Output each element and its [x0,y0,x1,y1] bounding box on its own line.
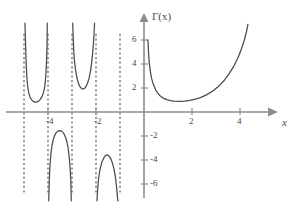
y-tick-label: 6 [132,35,137,44]
plot-canvas [0,0,298,218]
gamma-branch--4--3 [49,131,72,201]
x-tick-label: 2 [189,117,194,126]
y-tick-label: 4 [132,59,137,68]
y-tick-label: 2 [132,83,137,92]
gamma-branch--5--4 [25,23,47,102]
x-tick-label: -2 [94,117,102,126]
asymptote-lines [24,34,120,194]
x-tick-label: -4 [46,117,54,126]
y-axis-label: Γ(x) [152,11,171,22]
y-tick-label: -4 [150,155,158,164]
y-tick-label: -2 [150,131,158,140]
x-tick-label: 4 [237,117,242,126]
y-axis [140,13,149,198]
gamma-branch--3--2 [73,23,95,89]
gamma-function-plot: -4-224642-2-4-6 Γ(x) x [0,0,298,218]
gamma-branch--2--1 [97,155,118,201]
y-tick-label: -6 [150,179,158,188]
gamma-branch-0-inf [148,24,248,101]
x-axis-label: x [282,117,287,128]
